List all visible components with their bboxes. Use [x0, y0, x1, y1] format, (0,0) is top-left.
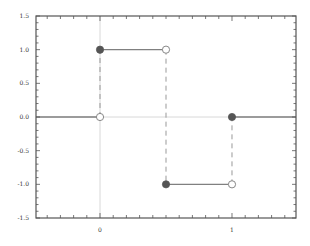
y-tick-label: -0.5 — [17, 147, 29, 154]
filled-point-marker — [228, 113, 235, 120]
x-tick-label: 0 — [98, 226, 102, 233]
y-tick-label: 0.0 — [19, 113, 29, 120]
open-point-marker — [162, 46, 169, 53]
y-tick-label: 1.5 — [19, 12, 29, 19]
filled-point-marker — [96, 46, 103, 53]
open-point-marker — [96, 113, 103, 120]
filled-point-marker — [162, 181, 169, 188]
y-tick-label: 1.0 — [19, 46, 29, 53]
y-tick-label: -1.5 — [17, 214, 29, 221]
open-point-marker — [228, 181, 235, 188]
tick-labels: 1.51.00.50.0-0.5-1.0-1.501 — [17, 12, 233, 233]
y-tick-label: 0.5 — [19, 79, 29, 86]
y-tick-label: -1.0 — [17, 180, 29, 187]
step-function-chart: 1.51.00.50.0-0.5-1.0-1.501 — [0, 0, 310, 246]
x-tick-label: 1 — [230, 226, 234, 233]
